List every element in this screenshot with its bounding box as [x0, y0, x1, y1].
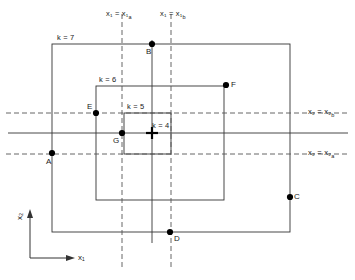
line-label-x1a: x₁ = x₁a: [106, 10, 132, 20]
diagram-canvas: x₂ x₁ ABCDEFGk = 7k = 6k = 5k = 4x₁ = x₁…: [0, 0, 355, 280]
point-marker-F[interactable]: [223, 82, 229, 88]
y-axis-label: x₂: [16, 213, 24, 220]
line-label-x2a: x₂ = x₂a: [308, 149, 335, 159]
line-label-x2b: x₂ = x₂b: [308, 108, 335, 118]
point-label-F: F: [231, 81, 236, 89]
point-marker-E[interactable]: [93, 110, 99, 116]
x-axis-label: x₁: [78, 254, 85, 262]
point-label-C: C: [294, 193, 300, 201]
point-label-D: D: [174, 235, 180, 243]
region-label-k6: k = 6: [99, 76, 116, 84]
point-marker-C[interactable]: [287, 194, 293, 200]
region-label-k7: k = 7: [57, 34, 74, 42]
region-label-k5: k = 5: [127, 103, 144, 111]
region-label-k4: k = 4: [152, 122, 169, 130]
point-label-A: A: [46, 158, 51, 166]
point-marker-G[interactable]: [119, 130, 125, 136]
point-marker-A[interactable]: [49, 150, 55, 156]
point-label-G: G: [113, 137, 119, 145]
point-marker-D[interactable]: [167, 229, 173, 235]
point-label-E: E: [87, 103, 92, 111]
point-label-B: B: [146, 48, 151, 56]
y-axis-arrowhead: [27, 209, 33, 218]
x-axis-arrowhead: [66, 255, 75, 261]
line-label-x1b: x₁ = x₁b: [160, 10, 186, 20]
